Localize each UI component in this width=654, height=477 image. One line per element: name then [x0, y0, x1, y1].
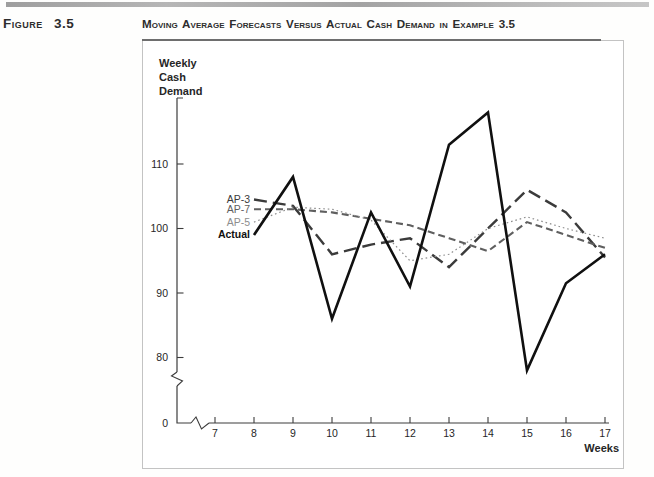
- x-tick-label: 12: [404, 427, 416, 439]
- x-axis-break: [191, 417, 209, 429]
- series-label-ap-7: AP-7: [227, 203, 251, 215]
- series-label-actual: Actual: [218, 228, 250, 240]
- x-tick-label: 17: [599, 427, 611, 439]
- y-tick-label: 90: [156, 287, 168, 299]
- y-tick-label-0: 0: [162, 417, 168, 429]
- x-tick-label: 9: [290, 427, 296, 439]
- axes: [177, 98, 609, 423]
- series-label-ap-5: AP-5: [227, 216, 251, 228]
- line-chart: 080901001107891011121314151617WeeklyCash…: [0, 0, 654, 477]
- y-tick-label: 80: [156, 351, 168, 363]
- x-tick-label: 11: [366, 427, 377, 439]
- y-tick-label: 110: [151, 158, 168, 170]
- x-tick-label: 13: [443, 427, 455, 439]
- y-axis-title-line: Weekly: [159, 57, 198, 69]
- x-tick-label: 14: [482, 427, 494, 439]
- x-axis-title: Weeks: [584, 442, 619, 454]
- y-tick-label: 100: [150, 222, 168, 234]
- x-tick-label: 16: [560, 427, 572, 439]
- y-axis-title-line: Demand: [159, 85, 202, 97]
- y-axis-title-line: Cash: [159, 71, 186, 83]
- page: Figure 3.5 Moving Average Forecasts Vers…: [0, 0, 654, 477]
- x-tick-label: 8: [251, 427, 257, 439]
- x-tick-label: 7: [212, 427, 218, 439]
- y-axis-break: [172, 372, 183, 386]
- x-tick-label: 15: [521, 427, 533, 439]
- x-tick-label: 10: [326, 427, 338, 439]
- series-line-actual: [254, 112, 605, 370]
